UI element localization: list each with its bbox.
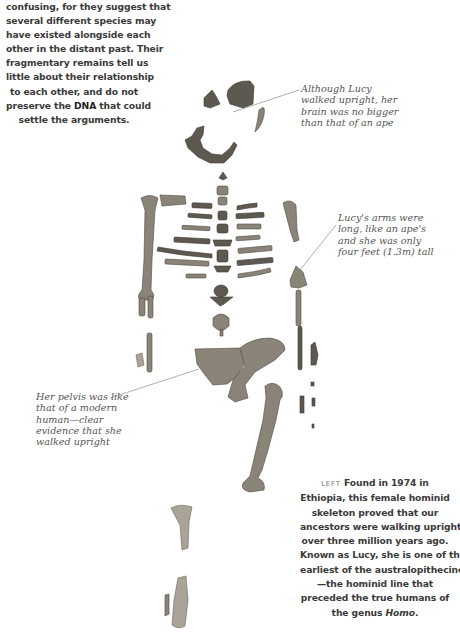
finger-bone — [312, 398, 315, 406]
genus-name: Homo — [386, 607, 416, 618]
rib — [237, 203, 257, 210]
vertebra — [210, 297, 233, 306]
hand-bone — [136, 353, 144, 367]
scapula-fragment — [160, 195, 186, 206]
finger-bone — [311, 382, 314, 386]
mandible — [185, 126, 237, 163]
annotation-line: long, like an ape's — [338, 223, 434, 234]
text-line: skeleton proved that our — [300, 506, 450, 520]
vertebra — [214, 285, 228, 297]
vertebra — [219, 172, 227, 180]
annotation-line: human—clear — [36, 414, 129, 425]
rib — [236, 235, 260, 241]
text-line: Known as Lucy, she is one of the — [300, 548, 450, 562]
skull-fragments — [185, 81, 264, 163]
annotation-line: that of a modern — [36, 402, 129, 413]
text-line: earliest of the australopithecines — [300, 563, 450, 577]
finger-bone — [300, 396, 304, 413]
intro-paragraph: confusing, for they suggest that several… — [6, 0, 142, 127]
caption-text: Found in 1974 in — [344, 477, 429, 488]
book-page: confusing, for they suggest that several… — [0, 0, 460, 641]
text-line: other in the distant past. Their — [6, 42, 142, 56]
forearm-bone — [296, 290, 301, 326]
rib — [238, 268, 271, 278]
humerus-right — [283, 201, 299, 242]
text-line: Ethiopia, this female hominid — [300, 491, 450, 505]
dna-emphasis: DNA — [74, 100, 96, 111]
text-line: several different species may — [6, 14, 142, 28]
humerus-left — [138, 196, 158, 301]
rib — [237, 224, 261, 229]
left-arm — [136, 195, 186, 372]
rib — [174, 237, 210, 244]
annotation-line: brain was no bigger — [301, 106, 398, 117]
rib — [186, 274, 206, 278]
forearm-bone — [147, 333, 152, 372]
text-line: have existed alongside each — [6, 28, 142, 42]
skull-fragment-left — [204, 90, 220, 108]
ribs-right — [236, 203, 273, 278]
text-line: preceded the true humans of — [300, 591, 450, 605]
annotation-brain: Although Lucy walked upright, her brain … — [301, 83, 398, 128]
hand-bone — [311, 342, 318, 365]
rib — [165, 259, 209, 266]
leader-line-arms — [300, 225, 336, 270]
skull-fragment-right — [255, 107, 264, 132]
annotation-line: Lucy's arms were — [338, 212, 434, 223]
finger-bone — [312, 424, 314, 428]
caption-text: the genus — [332, 607, 386, 618]
rib — [188, 213, 212, 219]
text-line: to each other, and do not — [6, 85, 142, 99]
text-line: settle the arguments. — [6, 113, 142, 127]
rib — [236, 212, 264, 218]
vertebra — [217, 186, 228, 195]
vertebra — [213, 314, 229, 330]
right-arm — [283, 201, 318, 428]
caption-label: LEFT — [321, 480, 341, 488]
annotation-line: Although Lucy — [301, 83, 398, 94]
tibia-upper — [171, 505, 192, 550]
vertebra — [213, 240, 232, 246]
rib — [182, 225, 210, 230]
text-line: fragmentary remains tell us — [6, 56, 142, 70]
text-line: —the hominid line that — [300, 577, 450, 591]
rib — [237, 257, 273, 265]
vertebra — [220, 330, 223, 336]
annotation-line: Her pelvis was like — [36, 391, 129, 402]
annotation-line: four feet (1.3m) tall — [338, 246, 434, 257]
tibia-lower — [172, 576, 188, 628]
annotation-line: walked upright, her — [301, 94, 398, 105]
vertebra — [214, 266, 231, 272]
ribs-left — [157, 203, 212, 278]
figure-caption: LEFT Found in 1974 in Ethiopia, this fem… — [300, 476, 450, 620]
text-line: over three million years ago. — [300, 534, 450, 548]
annotation-arms: Lucy's arms were long, like an ape's and… — [338, 212, 434, 257]
caption-first-line: LEFT Found in 1974 in — [300, 476, 450, 491]
forearm-bone — [139, 298, 145, 316]
fibula-fragment — [165, 594, 169, 616]
rib — [192, 203, 212, 209]
text-line: preserve the DNA that could — [6, 99, 142, 113]
skull-fragment-cranium — [227, 81, 254, 108]
text-line: confusing, for they suggest that — [6, 0, 142, 14]
rib — [157, 247, 212, 258]
vertebra — [217, 224, 228, 233]
caption-text: . — [415, 607, 418, 618]
femur — [242, 383, 282, 492]
rib — [238, 246, 272, 254]
vertebra — [218, 197, 227, 205]
vertebra — [217, 250, 228, 262]
forearm-bone — [148, 296, 153, 318]
annotation-line: and she was only — [338, 235, 434, 246]
vertebrae — [210, 172, 233, 336]
caption-last-line: the genus Homo. — [300, 606, 450, 620]
forearm-bone — [298, 326, 302, 370]
text-line: little about their relationship — [6, 70, 142, 84]
text-line: ancestors were walking upright — [300, 520, 450, 534]
annotation-line: than that of an ape — [301, 117, 398, 128]
annotation-line: walked upright — [36, 436, 129, 447]
annotation-pelvis: Her pelvis was like that of a modern hum… — [36, 391, 129, 447]
annotation-line: evidence that she — [36, 425, 129, 436]
radius-head — [290, 266, 307, 288]
vertebra — [218, 211, 227, 220]
